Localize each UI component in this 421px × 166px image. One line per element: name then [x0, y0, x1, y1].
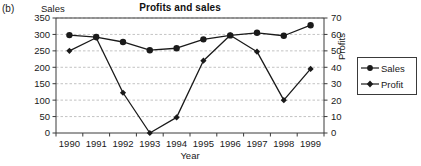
- svg-text:250: 250: [34, 45, 50, 56]
- svg-text:1992: 1992: [112, 138, 133, 149]
- legend-item-profit: Profit: [360, 76, 403, 92]
- series-sales: [66, 22, 314, 53]
- tick-labels-right: 010203040506070: [331, 12, 342, 138]
- svg-text:1991: 1991: [86, 138, 107, 149]
- chart-legend: Sales Profit: [357, 57, 417, 95]
- svg-text:1994: 1994: [166, 138, 187, 149]
- chart-figure: (b) Profits and sales Sales Profits Year…: [0, 0, 421, 166]
- svg-text:50: 50: [331, 45, 342, 56]
- legend-item-sales: Sales: [360, 60, 405, 76]
- svg-text:1995: 1995: [193, 138, 214, 149]
- svg-text:1990: 1990: [59, 138, 80, 149]
- tick-labels-left: 050100150200250300350: [34, 12, 50, 138]
- svg-text:30: 30: [331, 78, 342, 89]
- svg-text:50: 50: [39, 111, 50, 122]
- svg-text:1999: 1999: [300, 138, 321, 149]
- svg-text:70: 70: [331, 12, 342, 23]
- svg-text:10: 10: [331, 111, 342, 122]
- legend-label-sales: Sales: [381, 63, 405, 74]
- svg-text:150: 150: [34, 78, 50, 89]
- svg-text:100: 100: [34, 95, 50, 106]
- svg-text:60: 60: [331, 29, 342, 40]
- svg-text:200: 200: [34, 62, 50, 73]
- svg-text:1998: 1998: [273, 138, 294, 149]
- svg-text:20: 20: [331, 95, 342, 106]
- svg-text:1993: 1993: [139, 138, 160, 149]
- svg-text:1996: 1996: [220, 138, 241, 149]
- svg-text:0: 0: [331, 127, 336, 138]
- legend-marker-diamond-icon: [360, 77, 380, 91]
- legend-marker-circle-icon: [360, 61, 380, 75]
- series-profit: [66, 32, 313, 136]
- svg-text:0: 0: [45, 127, 50, 138]
- svg-text:350: 350: [34, 12, 50, 23]
- svg-text:300: 300: [34, 29, 50, 40]
- tick-labels-x: 1990199119921993199419951996199719981999: [59, 138, 321, 149]
- svg-text:1997: 1997: [246, 138, 267, 149]
- svg-text:40: 40: [331, 62, 342, 73]
- legend-label-profit: Profit: [381, 79, 403, 90]
